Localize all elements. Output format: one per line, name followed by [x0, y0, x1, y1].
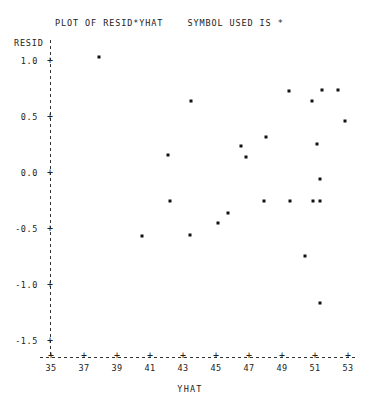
data-point — [318, 301, 321, 304]
data-point — [167, 154, 170, 157]
x-tick-label: 47 — [241, 364, 257, 373]
x-tick-label: 41 — [142, 364, 158, 373]
x-tick-label: 53 — [340, 364, 356, 373]
data-point — [343, 120, 346, 123]
y-tick-mark: + — [47, 224, 53, 234]
data-point — [239, 145, 242, 148]
x-tick-label: 49 — [274, 364, 290, 373]
y-tick-label: -1.0 — [15, 281, 38, 290]
data-point — [97, 55, 100, 58]
x-tick-mark: + — [246, 351, 252, 361]
data-point — [188, 233, 191, 236]
x-tick-label: 35 — [43, 364, 59, 373]
x-tick-mark: + — [279, 351, 285, 361]
x-tick-label: 43 — [175, 364, 191, 373]
y-tick-mark: + — [47, 336, 53, 346]
x-tick-mark: + — [345, 351, 351, 361]
plot-title: PLOT OF RESID*YHAT SYMBOL USED IS * — [55, 18, 284, 28]
x-tick-mark: + — [147, 351, 153, 361]
y-tick-mark: + — [47, 112, 53, 122]
y-tick-mark: + — [47, 168, 53, 178]
data-point — [262, 200, 265, 203]
data-point — [312, 200, 315, 203]
data-point — [310, 100, 313, 103]
x-tick-mark: + — [312, 351, 318, 361]
data-point — [315, 142, 318, 145]
data-point — [226, 212, 229, 215]
y-tick-label: 1.0 — [21, 57, 38, 66]
data-point — [190, 100, 193, 103]
y-tick-label: 0.0 — [21, 169, 38, 178]
data-point — [216, 222, 219, 225]
x-tick-mark: + — [213, 351, 219, 361]
x-tick-mark: + — [114, 351, 120, 361]
data-point — [287, 90, 290, 93]
x-tick-mark: + — [81, 351, 87, 361]
x-tick-mark: + — [180, 351, 186, 361]
data-point — [318, 200, 321, 203]
data-point — [244, 156, 247, 159]
x-tick-mark: + — [48, 351, 54, 361]
y-axis-label: RESID — [14, 38, 44, 48]
y-tick-label: 0.5 — [21, 113, 38, 122]
y-tick-label: -1.5 — [15, 337, 38, 346]
y-tick-mark: + — [47, 56, 53, 66]
data-point — [140, 234, 143, 237]
x-tick-label: 45 — [208, 364, 224, 373]
data-point — [264, 136, 267, 139]
x-tick-label: 37 — [76, 364, 92, 373]
data-point — [289, 200, 292, 203]
data-point — [337, 89, 340, 92]
data-point — [304, 254, 307, 257]
x-axis-line — [40, 357, 358, 358]
y-tick-label: -0.5 — [15, 225, 38, 234]
x-axis-label: YHAT — [0, 384, 380, 394]
x-tick-label: 51 — [307, 364, 323, 373]
data-point — [320, 89, 323, 92]
scatter-plot-figure: PLOT OF RESID*YHAT SYMBOL USED IS * RESI… — [0, 0, 380, 406]
data-point — [318, 177, 321, 180]
y-tick-mark: + — [47, 280, 53, 290]
x-tick-label: 39 — [109, 364, 125, 373]
y-axis-line — [50, 40, 51, 358]
data-point — [168, 200, 171, 203]
